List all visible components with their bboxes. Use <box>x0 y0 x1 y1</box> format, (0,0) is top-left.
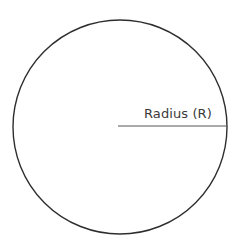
circle-radius-diagram: Radius (R) <box>0 0 239 252</box>
radius-label: Radius (R) <box>144 106 212 121</box>
diagram-canvas <box>0 0 239 252</box>
